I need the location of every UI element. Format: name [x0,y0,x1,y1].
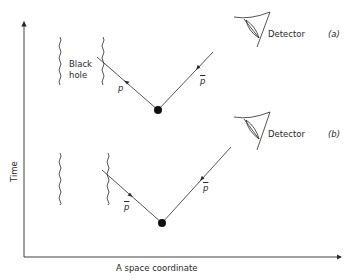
detector-label-b: Detector [268,130,305,139]
pair-creation-dot-b [158,219,166,227]
horizon-wavy-line-left-a [59,37,61,85]
detector-eye-icon-a [234,12,270,47]
x-axis-label: A space coordinate [116,264,198,273]
diagram-canvas [0,0,354,279]
panel-label-b: (b) [328,130,340,139]
horizon-wavy-line-left-b [59,153,61,205]
panel-label-a: (a) [328,30,340,39]
particle-line-outgoing-b [162,147,231,223]
black-hole-label-line1: Black [69,60,92,69]
outgoing-antiparticle-label-a: p [200,77,205,86]
incoming-particle-label-a: p [118,84,123,93]
horizon-wavy-line-right-b [107,153,109,205]
arrowhead-incoming-a [124,81,130,85]
pair-creation-dot-a [154,106,162,114]
horizon-wavy-line-right-a [102,37,104,85]
incoming-antiparticle-label-b: p [124,203,129,212]
panel-b [59,112,270,227]
detector-label-a: Detector [268,30,305,39]
detector-eye-icon-b [234,112,270,150]
black-hole-label-line2: hole [69,71,87,80]
y-axis-label: Time [9,161,19,182]
outgoing-antiparticle-label-b: p [203,184,208,193]
hawking-radiation-diagram: Time A space coordinate Black hole p p D… [0,0,354,279]
